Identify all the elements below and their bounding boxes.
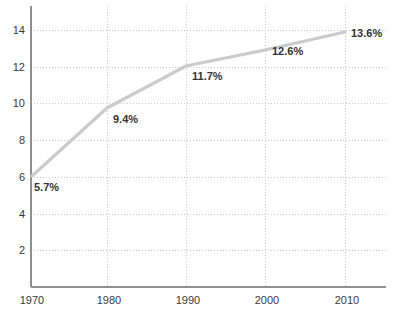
y-tick-label-4: 4 bbox=[19, 208, 25, 220]
data-label-1970: 5.7% bbox=[34, 181, 59, 193]
axes bbox=[31, 6, 386, 287]
y-tick-label-8: 8 bbox=[19, 134, 25, 146]
y-axis-tick-labels: 14 12 10 8 6 4 2 bbox=[13, 24, 25, 256]
x-tick-label-2010: 2010 bbox=[335, 294, 359, 306]
line-chart: 14 12 10 8 6 4 2 1970 1980 1990 2000 201… bbox=[0, 0, 398, 313]
x-tick-label-1990: 1990 bbox=[176, 294, 200, 306]
x-tick-label-1980: 1980 bbox=[97, 294, 121, 306]
data-label-2000: 12.6% bbox=[272, 45, 303, 57]
data-label-1980: 9.4% bbox=[113, 113, 138, 125]
y-tick-label-12: 12 bbox=[13, 61, 25, 73]
y-tick-label-6: 6 bbox=[19, 171, 25, 183]
x-axis-tick-labels: 1970 1980 1990 2000 2010 bbox=[20, 294, 359, 306]
chart-canvas: 14 12 10 8 6 4 2 1970 1980 1990 2000 201… bbox=[0, 0, 398, 313]
y-tick-label-10: 10 bbox=[13, 97, 25, 109]
y-tick-label-2: 2 bbox=[19, 244, 25, 256]
vertical-gridlines bbox=[107, 6, 345, 287]
x-tick-label-2000: 2000 bbox=[255, 294, 279, 306]
data-label-2010: 13.6% bbox=[351, 27, 382, 39]
data-label-1990: 11.7% bbox=[192, 70, 223, 82]
y-tick-label-14: 14 bbox=[13, 24, 25, 36]
x-tick-label-1970: 1970 bbox=[20, 294, 44, 306]
data-point-labels: 5.7% 9.4% 11.7% 12.6% 13.6% bbox=[34, 27, 382, 193]
